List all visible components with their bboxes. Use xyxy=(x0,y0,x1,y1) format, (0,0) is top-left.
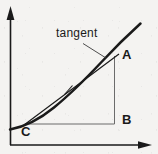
point-c-label: C xyxy=(21,125,30,138)
point-a-label: A xyxy=(122,48,131,61)
tangent-gradient-figure: tangent A B C xyxy=(0,0,158,154)
tangent-label: tangent xyxy=(56,27,97,39)
x-axis-arrowhead-icon xyxy=(138,141,152,149)
tangent-leader-line xyxy=(83,44,106,59)
y-axis-arrowhead-icon xyxy=(7,6,15,20)
tangent-line xyxy=(24,54,119,125)
point-b-label: B xyxy=(122,113,131,126)
